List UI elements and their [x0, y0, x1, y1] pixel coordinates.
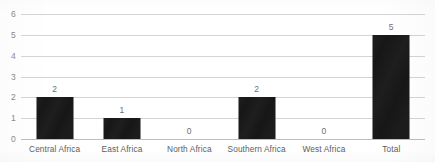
y-axis-tick-label: 0 [2, 135, 16, 144]
bar[interactable] [373, 35, 410, 139]
bar-group[interactable]: 5Total [358, 0, 425, 162]
bar-group[interactable]: 0North Africa [156, 0, 223, 162]
bar-group[interactable]: 0West Africa [290, 0, 357, 162]
bar-group[interactable]: 1East Africa [88, 0, 155, 162]
y-axis-tick-label: 6 [2, 10, 16, 19]
y-axis-tick-label: 4 [2, 52, 16, 61]
y-axis-tick-label: 3 [2, 73, 16, 82]
y-axis-tick-label: 1 [2, 114, 16, 123]
bar-chart: 0123456 2Central Africa1East Africa0Nort… [0, 0, 435, 162]
bar-value-label: 1 [88, 106, 155, 115]
bar-value-label: 0 [290, 127, 357, 136]
bar-value-label: 2 [21, 85, 88, 94]
x-axis-category-label: Total [350, 145, 433, 153]
bar-value-label: 5 [358, 23, 425, 32]
bar-group[interactable]: 2Southern Africa [223, 0, 290, 162]
bar[interactable] [238, 97, 275, 139]
bar-group[interactable]: 2Central Africa [21, 0, 88, 162]
bars-layer: 2Central Africa1East Africa0North Africa… [21, 0, 425, 162]
y-axis: 0123456 [0, 0, 21, 162]
bar-value-label: 2 [223, 85, 290, 94]
bar-value-label: 0 [156, 127, 223, 136]
bar[interactable] [103, 118, 140, 139]
bar[interactable] [36, 97, 73, 139]
y-axis-tick-label: 2 [2, 93, 16, 102]
y-axis-tick-label: 5 [2, 31, 16, 40]
